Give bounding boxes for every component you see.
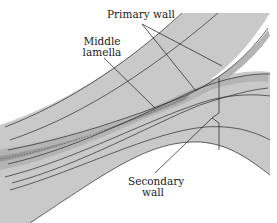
label-primary-wall: Primary wall (107, 9, 175, 20)
label-secondary-wall: Secondary wall (128, 176, 178, 198)
label-middle-lamella: Middle lamella (82, 36, 122, 58)
label-middle-lamella-line2: lamella (82, 47, 122, 58)
label-secondary-wall-line2: wall (128, 187, 178, 198)
